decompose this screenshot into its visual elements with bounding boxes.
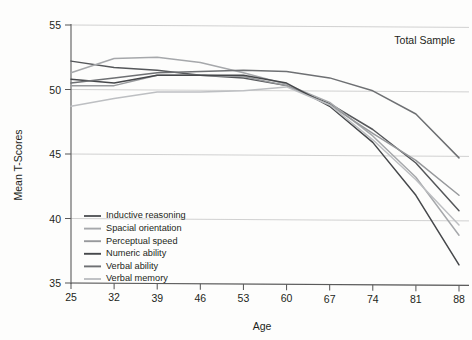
legend-label-perceptual-speed: Perceptual speed bbox=[106, 236, 178, 246]
chart-container: 3540455055 25323946536067748188 Inductiv… bbox=[0, 0, 472, 340]
y-tick-label-50: 50 bbox=[49, 84, 61, 96]
x-tick-label-81: 81 bbox=[410, 293, 422, 305]
x-tick-label-74: 74 bbox=[367, 293, 379, 305]
legend-label-inductive-reasoning: Inductive reasoning bbox=[106, 210, 186, 220]
gridline-y-50 bbox=[71, 90, 469, 92]
y-axis-title: Mean T-Scores bbox=[12, 129, 24, 200]
series-line-spacial-orientation bbox=[71, 57, 459, 235]
y-tick-label-55: 55 bbox=[49, 19, 61, 31]
x-axis-title: Age bbox=[253, 320, 272, 332]
x-tick-label-46: 46 bbox=[194, 292, 206, 304]
gridline-y-55 bbox=[71, 25, 469, 27]
total-sample-annotation: Total Sample bbox=[394, 34, 455, 46]
y-tick-label-35: 35 bbox=[49, 277, 61, 289]
x-tick-label-25: 25 bbox=[65, 291, 77, 303]
x-tick-label-32: 32 bbox=[108, 291, 120, 303]
gridlines bbox=[71, 25, 469, 285]
chart-legend: Inductive reasoningSpacial orientationPe… bbox=[84, 210, 186, 283]
legend-label-spacial-orientation: Spacial orientation bbox=[106, 223, 182, 233]
x-tick-label-53: 53 bbox=[238, 292, 250, 304]
y-axis-ticks: 3540455055 bbox=[49, 19, 71, 289]
x-tick-label-60: 60 bbox=[281, 292, 293, 304]
legend-label-verbal-memory: Verbal memory bbox=[106, 273, 168, 283]
line-chart: 3540455055 25323946536067748188 Inductiv… bbox=[0, 0, 472, 340]
x-tick-label-39: 39 bbox=[151, 292, 163, 304]
y-tick-label-45: 45 bbox=[49, 148, 61, 160]
series-line-verbal-ability bbox=[71, 70, 459, 158]
x-tick-label-67: 67 bbox=[324, 293, 336, 305]
x-axis-ticks: 25323946536067748188 bbox=[65, 283, 465, 305]
data-series bbox=[71, 57, 459, 265]
x-tick-label-88: 88 bbox=[453, 293, 465, 305]
legend-label-numeric-ability: Numeric ability bbox=[106, 248, 167, 258]
series-line-inductive-reasoning bbox=[71, 61, 459, 211]
legend-label-verbal-ability: Verbal ability bbox=[106, 261, 158, 271]
y-tick-label-40: 40 bbox=[49, 213, 61, 225]
